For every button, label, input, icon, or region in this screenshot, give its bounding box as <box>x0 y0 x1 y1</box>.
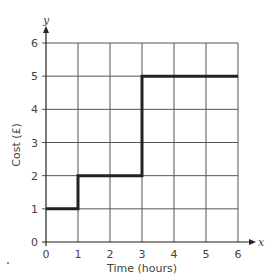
x-tick-label: 5 <box>203 248 210 261</box>
y-axis-title: Cost (£) <box>10 123 23 167</box>
y-tick-label: 4 <box>31 103 38 116</box>
y-tick-label: 5 <box>31 70 38 83</box>
x-axis-arrow-icon <box>249 239 256 245</box>
step-chart: 01234560123456 x y Time (hours) Cost (£) <box>0 0 274 280</box>
y-tick-label: 2 <box>31 170 38 183</box>
x-tick-label: 4 <box>171 248 178 261</box>
x-tick-label: 6 <box>235 248 242 261</box>
x-tick-label: 3 <box>139 248 146 261</box>
x-tick-label: 1 <box>75 248 82 261</box>
grid-lines <box>42 43 238 242</box>
tick-labels: 01234560123456 <box>31 37 242 261</box>
stray-mark <box>7 262 9 264</box>
x-axis-variable: x <box>258 236 265 249</box>
x-tick-label: 2 <box>107 248 114 261</box>
axes <box>42 26 256 246</box>
y-tick-label: 1 <box>31 203 38 216</box>
y-tick-label: 0 <box>31 236 38 249</box>
y-tick-label: 3 <box>31 137 38 150</box>
y-axis-variable: y <box>42 14 50 27</box>
x-tick-label: 0 <box>43 248 50 261</box>
x-axis-title: Time (hours) <box>106 262 177 275</box>
y-tick-label: 6 <box>31 37 38 50</box>
y-axis-arrow-icon <box>43 26 49 33</box>
